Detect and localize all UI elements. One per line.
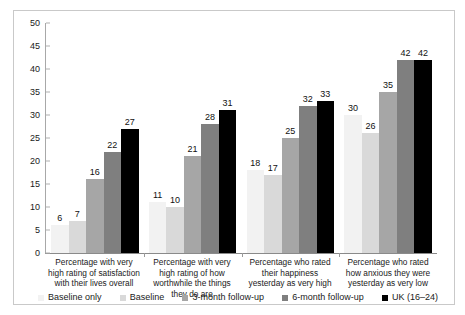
legend-swatch-icon	[282, 295, 288, 301]
legend-swatch-icon	[120, 295, 126, 301]
y-axis-tick-label: 50	[30, 19, 46, 28]
bar-value-label: 18	[250, 159, 260, 168]
legend-swatch-icon	[382, 295, 388, 301]
bar-column: 30	[344, 23, 362, 253]
bar-value-label: 22	[107, 141, 117, 150]
bar-value-label: 17	[268, 164, 278, 173]
bar-column: 42	[397, 23, 415, 253]
plot-area: 05101520253035404550 6716222711102128311…	[45, 23, 437, 254]
bar	[264, 175, 282, 253]
bar	[397, 60, 415, 253]
legend-swatch-icon	[182, 295, 188, 301]
legend-label: Baseline only	[48, 293, 102, 302]
legend-label: Baseline	[130, 293, 165, 302]
bar-value-label: 30	[348, 104, 358, 113]
legend-swatch-icon	[38, 295, 44, 301]
bar-cluster: 3026354242	[344, 23, 432, 253]
bar-column: 25	[282, 23, 300, 253]
bar-column: 18	[247, 23, 265, 253]
y-axis-tick-label: 5	[35, 226, 46, 235]
bar-column: 33	[317, 23, 335, 253]
legend-label: 3-month follow-up	[192, 293, 264, 302]
legend-label: 6-month follow-up	[292, 293, 364, 302]
y-axis-tick-label: 25	[30, 134, 46, 143]
chart-legend: Baseline onlyBaseline3-month follow-up6-…	[38, 293, 438, 302]
y-axis-tick-label: 10	[30, 203, 46, 212]
y-axis-tick-label: 20	[30, 157, 46, 166]
bar-column: 21	[184, 23, 202, 253]
bar-column: 35	[379, 23, 397, 253]
bar-column: 32	[299, 23, 317, 253]
bar-cluster: 1110212831	[149, 23, 237, 253]
bar	[362, 133, 380, 253]
legend-item[interactable]: Baseline only	[38, 293, 102, 302]
bar-column: 7	[69, 23, 87, 253]
bar-column: 11	[149, 23, 167, 253]
bar-group: 3026354242	[339, 23, 437, 253]
bar-column: 31	[219, 23, 237, 253]
bar-value-label: 16	[90, 168, 100, 177]
bar	[104, 152, 122, 253]
bar-value-label: 6	[57, 214, 62, 223]
bar	[86, 179, 104, 253]
bar-value-label: 32	[303, 95, 313, 104]
bar	[282, 138, 300, 253]
bar	[344, 115, 362, 253]
bar-column: 6	[51, 23, 69, 253]
bar-value-label: 26	[366, 122, 376, 131]
bar-value-label: 35	[383, 81, 393, 90]
bar-value-label: 7	[75, 210, 80, 219]
bar-group: 1817253233	[242, 23, 340, 253]
y-axis-tick-label: 45	[30, 42, 46, 51]
bar-value-label: 27	[125, 118, 135, 127]
legend-label: UK (16–24)	[392, 293, 438, 302]
bar-column: 22	[104, 23, 122, 253]
bar-column: 26	[362, 23, 380, 253]
bar-column: 10	[166, 23, 184, 253]
bar-value-label: 42	[401, 49, 411, 58]
bar	[69, 221, 87, 253]
bar	[149, 202, 167, 253]
bar-groups: 67162227111021283118172532333026354242	[46, 23, 437, 253]
y-axis-tick-label: 30	[30, 111, 46, 120]
bar	[219, 110, 237, 253]
bar	[201, 124, 219, 253]
legend-item[interactable]: Baseline	[120, 293, 165, 302]
bar-value-label: 28	[205, 113, 215, 122]
y-axis-tick-label: 15	[30, 180, 46, 189]
bar	[317, 101, 335, 253]
bar	[299, 106, 317, 253]
legend-item[interactable]: UK (16–24)	[382, 293, 438, 302]
bar-cluster: 1817253233	[247, 23, 335, 253]
legend-item[interactable]: 6-month follow-up	[282, 293, 364, 302]
bar	[166, 207, 184, 253]
y-axis-tick-label: 40	[30, 65, 46, 74]
bar	[379, 92, 397, 253]
chart-figure: 05101520253035404550 6716222711102128311…	[13, 10, 455, 305]
bar	[184, 156, 202, 253]
bar-value-label: 33	[320, 90, 330, 99]
bar-value-label: 25	[285, 127, 295, 136]
bar-group: 1110212831	[144, 23, 242, 253]
bar	[414, 60, 432, 253]
bar-column: 28	[201, 23, 219, 253]
bar-column: 16	[86, 23, 104, 253]
bar-group: 67162227	[46, 23, 144, 253]
y-axis-tick-label: 35	[30, 88, 46, 97]
bar	[247, 170, 265, 253]
bar-value-label: 21	[188, 145, 198, 154]
bar-value-label: 11	[153, 191, 162, 200]
bar-value-label: 31	[223, 99, 233, 108]
bar-column: 17	[264, 23, 282, 253]
bar-value-label: 10	[170, 196, 180, 205]
bar-value-label: 42	[418, 49, 428, 58]
bar-cluster: 67162227	[51, 23, 139, 253]
legend-item[interactable]: 3-month follow-up	[182, 293, 264, 302]
bar-column: 27	[121, 23, 139, 253]
bar	[51, 225, 69, 253]
bar-column: 42	[414, 23, 432, 253]
bar	[121, 129, 139, 253]
